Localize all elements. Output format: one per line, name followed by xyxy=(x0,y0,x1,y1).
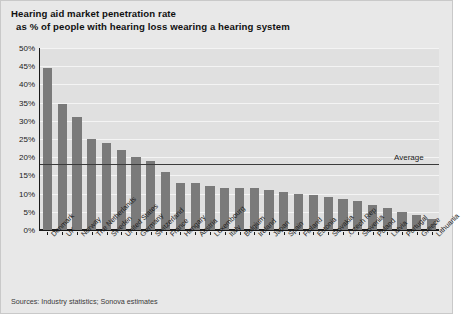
x-axis-tick xyxy=(284,232,285,235)
x-axis-tick xyxy=(151,232,152,235)
x-axis-labels: DenmarkUKNorwayThe NetherlandsSwedenUnit… xyxy=(40,232,439,294)
x-axis-tick xyxy=(121,232,122,235)
bar xyxy=(72,117,81,230)
chart-title-line-2: as % of people with hearing loss wearing… xyxy=(11,20,431,33)
x-axis-tick xyxy=(432,232,433,235)
y-axis-tick-label: 25% xyxy=(19,135,35,144)
chart-title: Hearing aid market penetration rate as %… xyxy=(11,7,431,33)
bar xyxy=(58,104,67,230)
x-axis-tick xyxy=(299,232,300,235)
bar xyxy=(43,68,52,230)
y-axis-tick-label: 30% xyxy=(19,116,35,125)
y-axis-tick-label: 10% xyxy=(19,189,35,198)
average-reference-line xyxy=(40,164,439,165)
x-axis-tick xyxy=(166,232,167,235)
x-axis-tick xyxy=(269,232,270,235)
x-axis-tick xyxy=(343,232,344,235)
x-axis-tick xyxy=(107,232,108,235)
x-axis-tick xyxy=(180,232,181,235)
source-footnote: Sources: Industry statistics; Sonova est… xyxy=(11,297,158,306)
y-axis-tick-label: 0% xyxy=(23,226,35,235)
x-axis-tick xyxy=(195,232,196,235)
chart-title-line-1: Hearing aid market penetration rate xyxy=(11,7,431,20)
x-axis-tick xyxy=(47,232,48,235)
x-axis-tick xyxy=(417,232,418,235)
x-axis-tick xyxy=(387,232,388,235)
x-axis-tick xyxy=(136,232,137,235)
y-axis-tick-label: 15% xyxy=(19,171,35,180)
x-axis-tick xyxy=(313,232,314,235)
y-axis-tick-label: 45% xyxy=(19,62,35,71)
x-axis-tick xyxy=(92,232,93,235)
x-axis-tick xyxy=(402,232,403,235)
y-axis-labels: 50%45%40%35%30%25%20%15%10%5%0% xyxy=(1,48,37,230)
x-axis-tick xyxy=(328,232,329,235)
x-axis-tick xyxy=(77,232,78,235)
x-axis-tick xyxy=(240,232,241,235)
x-axis-tick xyxy=(358,232,359,235)
y-axis-tick-label: 5% xyxy=(23,207,35,216)
x-axis-tick xyxy=(210,232,211,235)
y-axis-tick-label: 50% xyxy=(19,44,35,53)
x-axis-tick xyxy=(373,232,374,235)
y-axis-tick-label: 20% xyxy=(19,153,35,162)
x-axis-tick xyxy=(225,232,226,235)
x-axis-tick xyxy=(254,232,255,235)
average-label: Average xyxy=(394,153,424,162)
y-axis-tick-label: 35% xyxy=(19,98,35,107)
x-axis-tick xyxy=(62,232,63,235)
y-axis-tick-label: 40% xyxy=(19,80,35,89)
